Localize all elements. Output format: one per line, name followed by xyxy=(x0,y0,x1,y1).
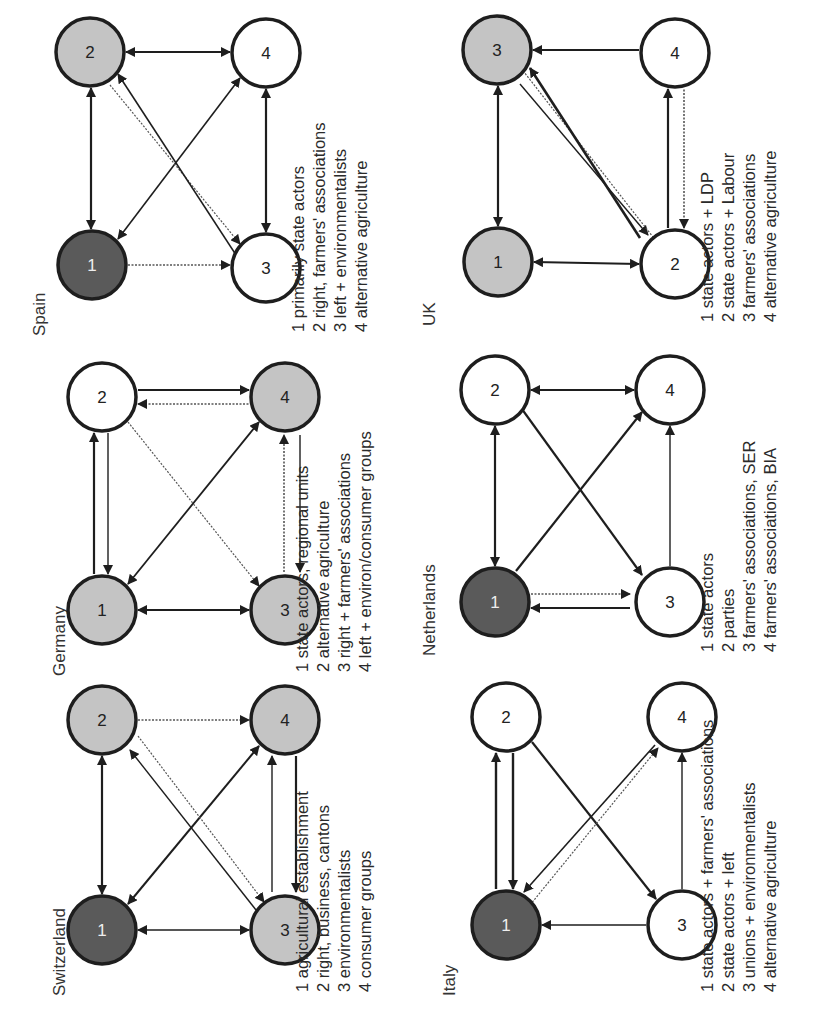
svg-text:4: 4 xyxy=(677,708,686,727)
svg-text:1: 1 xyxy=(490,593,499,612)
svg-text:2: 2 xyxy=(85,43,94,62)
svg-text:4: 4 xyxy=(280,388,289,407)
edge-3-2 xyxy=(130,750,256,910)
legend-item: 2 right, farmers' associations xyxy=(309,123,330,332)
legend-item: 1 agricultural establishment xyxy=(292,791,313,992)
svg-text:4: 4 xyxy=(670,44,679,63)
legend-item: 3 farmers' associations xyxy=(739,150,760,322)
node-4: 4 xyxy=(251,686,319,754)
panel-italy: Italy 1 2 3 4 1 state actors + farmers' … xyxy=(415,670,815,1000)
node-1: 1 xyxy=(464,228,532,296)
svg-text:1: 1 xyxy=(97,921,106,940)
legend-item: 3 unions + environmentalists xyxy=(739,720,760,992)
network-diagram: 1 2 3 4 xyxy=(450,670,730,1000)
legend-item: 2 state actors + left xyxy=(718,720,739,992)
node-1: 1 xyxy=(472,891,540,959)
network-diagram: 1 2 3 4 xyxy=(40,10,320,340)
node-1: 1 xyxy=(68,896,136,964)
edge-3-2 xyxy=(118,74,238,258)
legend: 1 state actors 2 parties 3 farmers' asso… xyxy=(697,441,781,652)
panel-uk: UK 1 3 2 4 1 state actors + LDP 2 state … xyxy=(415,0,815,330)
legend-item: 4 alternative agriculture xyxy=(760,150,781,322)
svg-text:1: 1 xyxy=(87,256,96,275)
svg-text:3: 3 xyxy=(280,921,289,940)
legend: 1 agricultural establishment 2 right, bu… xyxy=(292,791,376,992)
panel-netherlands: Netherlands 1 2 3 4 1 state actors 2 par… xyxy=(415,330,815,660)
legend-item: 3 right + farmers' associations xyxy=(334,431,355,672)
legend-item: 3 left + environmentalists xyxy=(330,123,351,332)
svg-text:2: 2 xyxy=(670,255,679,274)
node-2: 2 xyxy=(68,686,136,754)
node-1: 1 xyxy=(461,568,529,636)
svg-text:1: 1 xyxy=(97,601,106,620)
network-diagram: 1 3 2 4 xyxy=(430,0,710,330)
svg-text:3: 3 xyxy=(492,41,501,60)
edge-4-1 xyxy=(524,745,655,892)
legend-item: 1 state actors, regional units xyxy=(292,431,313,672)
legend-item: 1 state actors + LDP xyxy=(697,150,718,322)
legend-item: 4 alternative agriculture xyxy=(760,720,781,992)
legend-item: 3 farmers' associations, SER xyxy=(739,441,760,652)
svg-text:3: 3 xyxy=(665,593,674,612)
edge-4-1 xyxy=(524,72,660,246)
svg-text:1: 1 xyxy=(501,916,510,935)
legend-item: 3 environmentalists xyxy=(334,791,355,992)
legend-item: 1 state actors + farmers' associations xyxy=(697,720,718,992)
node-4: 4 xyxy=(641,19,709,87)
node-4: 4 xyxy=(251,363,319,431)
node-1: 1 xyxy=(58,231,126,299)
node-2: 2 xyxy=(56,18,124,86)
node-2: 3 xyxy=(463,16,531,84)
node-4: 4 xyxy=(636,356,704,424)
legend: 1 state actors, regional units 2 alterna… xyxy=(292,431,376,672)
node-2: 2 xyxy=(472,683,540,751)
legend-item: 4 alternative agriculture xyxy=(351,123,372,332)
svg-text:4: 4 xyxy=(261,44,270,63)
legend-item: 2 parties xyxy=(718,441,739,652)
legend-item: 2 state actors + Labour xyxy=(718,150,739,322)
network-diagram: 1 2 3 4 xyxy=(430,330,710,660)
edge-2-3 xyxy=(520,84,648,235)
legend: 1 primarily state actors 2 right, farmer… xyxy=(288,123,372,332)
panel-germany: Germany 1 2 3 4 1 state actors, regional… xyxy=(0,350,400,680)
node-3: 3 xyxy=(636,568,704,636)
edge-3-2 xyxy=(530,68,640,238)
svg-text:2: 2 xyxy=(501,708,510,727)
node-2: 2 xyxy=(461,356,529,424)
node-1: 1 xyxy=(68,576,136,644)
svg-text:2: 2 xyxy=(97,388,106,407)
legend-item: 4 left + environ/consumer groups xyxy=(355,431,376,672)
svg-text:4: 4 xyxy=(280,711,289,730)
edge-1-4 xyxy=(530,748,658,905)
panel-switzerland: Switzerland 1 2 3 4 1 agricultural estab… xyxy=(0,670,400,1000)
edge-1-4 xyxy=(128,422,259,584)
svg-text:3: 3 xyxy=(677,916,686,935)
legend: 1 state actors + LDP 2 state actors + La… xyxy=(697,150,781,322)
edge-2-3 xyxy=(110,85,240,244)
panel-spain: Spain 1 2 3 4 1 primarily state actors 2… xyxy=(0,10,400,340)
legend-item: 4 consumer groups xyxy=(355,791,376,992)
edge-2-3 xyxy=(138,736,264,902)
figure-canvas: Switzerland 1 2 3 4 1 agricultural estab… xyxy=(0,0,815,1020)
node-2: 2 xyxy=(68,363,136,431)
svg-text:3: 3 xyxy=(280,601,289,620)
edge-1-4 xyxy=(128,746,259,904)
legend-item: 2 alternative agriculture xyxy=(313,431,334,672)
svg-text:3: 3 xyxy=(261,259,270,278)
legend: 1 state actors + farmers' associations 2… xyxy=(697,720,781,992)
legend-item: 1 primarily state actors xyxy=(288,123,309,332)
node-4: 4 xyxy=(232,19,300,87)
edge-1-3 xyxy=(534,262,639,264)
svg-text:1: 1 xyxy=(493,253,502,272)
svg-text:2: 2 xyxy=(490,381,499,400)
edge-2-3 xyxy=(519,405,642,575)
legend-item: 4 farmers' associations, BIA xyxy=(760,441,781,652)
legend-item: 1 state actors xyxy=(697,441,718,652)
svg-text:4: 4 xyxy=(665,381,674,400)
legend-item: 2 right, business, cantons xyxy=(313,791,334,992)
svg-text:2: 2 xyxy=(97,711,106,730)
